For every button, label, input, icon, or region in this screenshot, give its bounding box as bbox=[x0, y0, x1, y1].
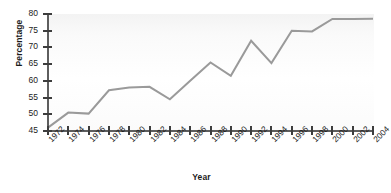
y-tick-label-45: 45 bbox=[18, 125, 38, 135]
y-tick-70 bbox=[43, 46, 52, 48]
y-tick-label-55: 55 bbox=[18, 92, 38, 102]
y-tick-50 bbox=[43, 113, 52, 115]
y-tick-80 bbox=[43, 13, 52, 15]
y-tick-60 bbox=[43, 80, 52, 82]
y-tick-55 bbox=[43, 97, 52, 99]
x-axis-title: Year bbox=[0, 172, 379, 182]
data-series-line bbox=[48, 19, 373, 128]
plot-area bbox=[48, 14, 374, 131]
y-tick-label-65: 65 bbox=[18, 58, 38, 68]
y-tick-label-80: 80 bbox=[18, 8, 38, 18]
y-tick-75 bbox=[43, 30, 52, 32]
y-tick-label-60: 60 bbox=[18, 75, 38, 85]
y-tick-label-75: 75 bbox=[18, 25, 38, 35]
x-tick-label-2004: 2004 bbox=[371, 124, 391, 144]
y-tick-label-70: 70 bbox=[18, 41, 38, 51]
y-tick-label-50: 50 bbox=[18, 108, 38, 118]
data-line-svg bbox=[48, 14, 374, 131]
y-tick-65 bbox=[43, 63, 52, 65]
